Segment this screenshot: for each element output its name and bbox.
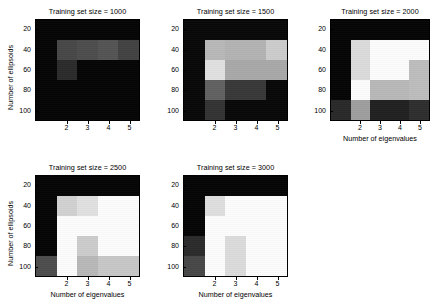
y-tick-mark [183, 70, 186, 71]
heatmap-cell [246, 80, 267, 100]
heatmap-cell [118, 80, 139, 100]
heatmap-cell [205, 80, 226, 100]
heatmap-cell [266, 176, 287, 196]
x-tick-label: 4 [393, 124, 407, 132]
heatmap-cell [409, 20, 429, 40]
heatmap-cell [225, 80, 246, 100]
heatmap-cell [246, 40, 267, 60]
heatmap-cell [57, 20, 78, 40]
heatmap-cell [118, 60, 139, 80]
x-tick-label: 5 [271, 280, 285, 288]
heatmap-cell [351, 60, 371, 80]
heatmap-cell [370, 20, 390, 40]
heatmap-cell [57, 40, 78, 60]
subplot-title: Training set size = 1500 [183, 7, 288, 16]
x-tick-mark [236, 277, 237, 280]
y-tick-mark [183, 246, 186, 247]
y-tick-label: 80 [303, 86, 326, 94]
heatmap-cell [331, 60, 351, 80]
heatmap-cell [184, 176, 205, 196]
heatmap-axes [183, 175, 288, 277]
heatmap-cell [225, 236, 246, 256]
x-tick-mark [67, 277, 68, 280]
heatmap-cell [225, 40, 246, 60]
heatmap-cell [225, 256, 246, 276]
y-tick-label: 60 [156, 66, 179, 74]
heatmap-cell [184, 256, 205, 276]
heatmap-cell [98, 176, 119, 196]
x-axis-label: Number of eigenvalues [183, 290, 288, 299]
heatmap-cell [36, 60, 57, 80]
x-tick-label: 4 [102, 124, 116, 132]
y-tick-label: 20 [156, 25, 179, 33]
y-tick-mark [35, 246, 38, 247]
heatmap-cell [77, 20, 98, 40]
x-tick-label: 4 [102, 280, 116, 288]
x-tick-label: 2 [208, 280, 222, 288]
heatmap-cell [57, 196, 78, 216]
heatmap-cell [205, 20, 226, 40]
x-tick-mark [236, 121, 237, 124]
heatmap-cell [205, 256, 226, 276]
heatmap-grid [331, 20, 429, 120]
x-tick-label: 3 [81, 124, 95, 132]
subplot-1: Training set size = 1000204060801002345N… [2, 7, 143, 143]
heatmap-cell [36, 40, 57, 60]
heatmap-cell [118, 40, 139, 60]
heatmap-cell [351, 100, 371, 120]
heatmap-cell [184, 40, 205, 60]
heatmap-cell [57, 80, 78, 100]
heatmap-cell [184, 216, 205, 236]
heatmap-cell [98, 100, 119, 120]
heatmap-cell [351, 20, 371, 40]
heatmap-cell [370, 60, 390, 80]
heatmap-cell [205, 40, 226, 60]
heatmap-cell [36, 216, 57, 236]
heatmap-cell [331, 20, 351, 40]
heatmap-cell [36, 80, 57, 100]
heatmap-cell [36, 176, 57, 196]
heatmap-cell [331, 100, 351, 120]
heatmap-cell [118, 176, 139, 196]
y-tick-mark [183, 185, 186, 186]
heatmap-cell [98, 60, 119, 80]
x-tick-label: 5 [271, 124, 285, 132]
heatmap-cell [409, 60, 429, 80]
heatmap-cell [98, 256, 119, 276]
y-tick-mark [183, 267, 186, 268]
heatmap-cell [390, 100, 410, 120]
y-tick-label: 20 [8, 25, 31, 33]
heatmap-grid [36, 176, 139, 276]
y-tick-mark [183, 226, 186, 227]
heatmap-cell [36, 20, 57, 40]
y-tick-label: 60 [303, 66, 326, 74]
heatmap-cell [266, 40, 287, 60]
subplot-title: Training set size = 1000 [35, 7, 140, 16]
heatmap-cell [225, 216, 246, 236]
heatmap-cell [184, 196, 205, 216]
heatmap-cell [77, 216, 98, 236]
heatmap-cell [266, 256, 287, 276]
heatmap-cell [98, 196, 119, 216]
heatmap-cell [77, 40, 98, 60]
heatmap-cell [246, 196, 267, 216]
heatmap-cell [184, 20, 205, 40]
heatmap-cell [118, 196, 139, 216]
x-tick-mark [380, 121, 381, 124]
x-tick-label: 4 [250, 280, 264, 288]
heatmap-axes [35, 175, 140, 277]
heatmap-grid [184, 176, 287, 276]
x-tick-mark [215, 121, 216, 124]
y-tick-mark [330, 29, 333, 30]
heatmap-cell [246, 176, 267, 196]
heatmap-cell [184, 60, 205, 80]
x-tick-mark [109, 121, 110, 124]
subplot-title: Training set size = 2500 [35, 163, 140, 172]
x-tick-label: 5 [123, 280, 137, 288]
heatmap-cell [370, 40, 390, 60]
subplot-5: Training set size = 3000204060801002345N… [150, 163, 291, 299]
y-tick-mark [35, 90, 38, 91]
x-tick-label: 3 [373, 124, 387, 132]
heatmap-cell [77, 256, 98, 276]
y-tick-mark [330, 70, 333, 71]
